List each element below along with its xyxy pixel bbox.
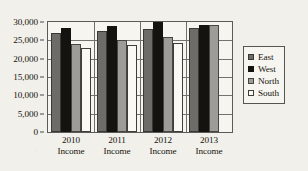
bar-east-1 [97, 31, 107, 132]
legend-item-east[interactable]: East [248, 51, 279, 63]
bar-south-0 [81, 48, 91, 132]
bar-east-3 [189, 28, 199, 133]
bar-east-0 [51, 33, 61, 132]
bar-north-2 [163, 37, 173, 132]
bar-south-1 [127, 45, 137, 132]
legend-swatch-icon [248, 54, 254, 60]
legend-item-south[interactable]: South [248, 87, 279, 99]
y-tick-mark [40, 77, 44, 78]
bar-chart: 05,00010,00015,00020,00025,00030,000 201… [0, 0, 308, 171]
y-tick-mark [40, 132, 44, 133]
x-tick-label: 2012Income [140, 135, 186, 157]
x-tick-label-year: 2012 [154, 135, 172, 145]
y-tick-label: 30,000 [13, 18, 38, 27]
bars-layer [48, 22, 232, 132]
x-tick-label-year: 2011 [108, 135, 126, 145]
chart-legend: EastWestNorthSouth [243, 46, 285, 104]
bar-south-2 [173, 43, 183, 132]
x-tick-label-year: 2013 [200, 135, 218, 145]
x-tick-label-metric: Income [48, 146, 94, 157]
y-tick-mark [40, 95, 44, 96]
x-axis: 2010Income2011Income2012Income2013Income [48, 135, 232, 169]
bar-group [48, 22, 94, 132]
bar-group [140, 22, 186, 132]
bar-west-0 [61, 28, 71, 133]
legend-swatch-icon [248, 66, 254, 72]
y-tick-label: 5,000 [18, 109, 38, 118]
y-tick-mark [40, 40, 44, 41]
bar-west-1 [107, 26, 117, 132]
x-tick-label: 2011Income [94, 135, 140, 157]
bar-north-1 [117, 40, 127, 132]
bar-north-3 [209, 25, 219, 132]
legend-item-label: East [258, 52, 273, 62]
bar-group [94, 22, 140, 132]
legend-item-label: South [258, 88, 279, 98]
x-tick-label: 2013Income [186, 135, 232, 157]
legend-item-west[interactable]: West [248, 63, 279, 75]
y-tick-label: 20,000 [13, 54, 38, 63]
y-tick-label: 10,000 [13, 91, 38, 100]
y-tick-label: 25,000 [13, 36, 38, 45]
y-tick-mark [40, 22, 44, 23]
x-tick-label: 2010Income [48, 135, 94, 157]
bar-west-3 [199, 25, 209, 132]
y-tick-mark [40, 113, 44, 114]
x-tick-label-metric: Income [186, 146, 232, 157]
legend-swatch-icon [248, 90, 254, 96]
x-tick-label-year: 2010 [62, 135, 80, 145]
legend-item-label: West [258, 64, 276, 74]
bar-north-0 [71, 44, 81, 132]
y-tick-label: 15,000 [13, 73, 38, 82]
bar-west-2 [153, 22, 163, 132]
bar-group [186, 22, 232, 132]
y-tick-mark [40, 58, 44, 59]
y-tick-label: 0 [34, 128, 39, 137]
y-axis: 05,00010,00015,00020,00025,00030,000 [0, 21, 44, 133]
bar-east-2 [143, 29, 153, 132]
x-tick-label-metric: Income [140, 146, 186, 157]
legend-item-north[interactable]: North [248, 75, 279, 87]
legend-item-label: North [258, 76, 279, 86]
x-tick-label-metric: Income [94, 146, 140, 157]
legend-swatch-icon [248, 78, 254, 84]
